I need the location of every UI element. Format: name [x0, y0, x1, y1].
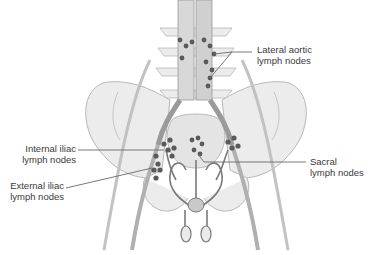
sacrum — [167, 114, 225, 168]
left-testis — [181, 226, 191, 242]
external-iliac-leader — [66, 168, 152, 188]
left-pubis — [143, 178, 188, 211]
prostate — [188, 198, 204, 212]
sacral-label-line2: lymph nodes — [310, 167, 364, 178]
internal-iliac-label-line1: Internal iliac — [10, 143, 76, 154]
sacral-label-line1: Sacral — [310, 156, 364, 167]
internal-iliac-label: Internal iliac lymph nodes — [10, 143, 76, 165]
pelvic-lymph-node-diagram — [0, 0, 392, 255]
aorta — [178, 0, 194, 100]
lateral-aortic-label: Lateral aortic lymph nodes — [257, 44, 312, 66]
right-testis — [201, 226, 211, 242]
lateral-aortic-label-line2: lymph nodes — [257, 55, 312, 66]
internal-iliac-label-line2: lymph nodes — [10, 154, 76, 165]
lateral-aortic-label-line1: Lateral aortic — [257, 44, 312, 55]
external-iliac-label-line1: External iliac — [0, 180, 64, 191]
sacral-label: Sacral lymph nodes — [310, 156, 364, 178]
external-iliac-label: External iliac lymph nodes — [0, 180, 64, 202]
external-iliac-label-line2: lymph nodes — [0, 191, 64, 202]
